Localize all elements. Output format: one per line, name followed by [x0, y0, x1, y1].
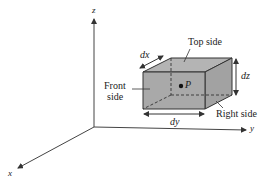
y-axis	[94, 127, 246, 130]
front-side-label-line1: Front	[104, 81, 126, 91]
cube-front-face	[143, 72, 205, 109]
right-side-label: Right side	[216, 109, 257, 119]
diagram-canvas	[0, 0, 270, 180]
z-axis-label: z	[92, 6, 96, 15]
dy-label: dy	[170, 117, 179, 127]
x-axis	[18, 127, 94, 168]
x-axis-label: x	[8, 169, 12, 178]
dx-label: dx	[140, 50, 149, 60]
right-side-leader	[216, 101, 223, 108]
point-p-label: P	[185, 80, 191, 90]
front-side-label-line2: side	[107, 92, 123, 102]
y-axis-label: y	[250, 124, 254, 133]
dz-label: dz	[241, 71, 250, 81]
top-side-label: Top side	[188, 37, 222, 47]
point-p-dot	[179, 84, 183, 88]
